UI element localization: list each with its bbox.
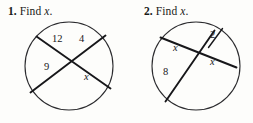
problem-1-label-4: 4 xyxy=(79,33,85,44)
problem-2-label-x-upper: x xyxy=(172,42,178,53)
problem-1: 1. Find x. 12 4 9 x xyxy=(0,0,127,123)
problem-2-figure: x 2 8 x xyxy=(126,0,253,123)
problem-2: 2. Find x. x 2 8 x xyxy=(126,0,253,123)
problem-1-label-9: 9 xyxy=(44,61,49,72)
circle-outline-1 xyxy=(25,22,113,110)
problem-2-label-2: 2 xyxy=(210,29,215,40)
chord-1b xyxy=(31,36,106,93)
problem-1-label-x: x xyxy=(83,71,89,82)
problem-2-label-8: 8 xyxy=(163,66,168,77)
worksheet-page: 1. Find x. 12 4 9 x 2. Find x. xyxy=(0,0,253,123)
problem-1-label-12: 12 xyxy=(52,33,63,44)
problem-2-label-x-lower: x xyxy=(209,56,215,67)
chord-2b xyxy=(161,38,237,68)
problem-1-figure: 12 4 9 x xyxy=(0,0,127,123)
